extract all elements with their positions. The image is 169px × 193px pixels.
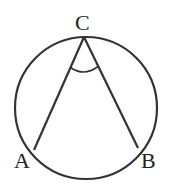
diagram-canvas: C A B (0, 0, 169, 193)
label-b: B (141, 148, 156, 173)
circle (15, 37, 157, 179)
label-c: C (75, 10, 90, 35)
label-a: A (14, 148, 30, 173)
chord-cb (84, 37, 138, 148)
angle-arc-c (71, 67, 99, 73)
